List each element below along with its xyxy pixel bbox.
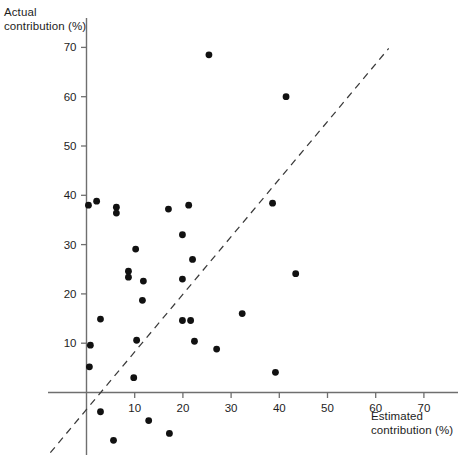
x-tick-label: 10 [128,402,141,414]
data-point [140,278,147,285]
y-tick-label: 10 [64,337,77,349]
x-tick-label: 50 [321,402,334,414]
data-point [97,316,104,323]
y-tick-label: 70 [64,41,77,53]
x-tick-label: 30 [225,402,238,414]
x-tick-label: 60 [369,402,382,414]
x-tick-label: 70 [418,402,431,414]
data-point [272,369,279,376]
data-point [139,297,146,304]
data-point [166,430,173,437]
axes-group [48,18,458,455]
data-point [189,256,196,263]
data-point [125,268,132,275]
data-point [269,200,276,207]
data-points-group [85,51,299,443]
data-point [187,317,194,324]
data-point [125,274,132,281]
y-tick-label: 50 [64,140,77,152]
data-point [130,374,137,381]
data-point [87,342,94,349]
plot-canvas: 10203040506070 10203040506070 [0,0,458,455]
data-point [179,317,186,324]
data-point [206,51,213,58]
y-tick-label: 30 [64,239,77,251]
data-point [145,417,152,424]
data-point [191,338,198,345]
y-ticks-group: 10203040506070 [64,41,87,349]
x-tick-label: 20 [177,402,190,414]
y-tick-label: 60 [64,91,77,103]
data-point [185,202,192,209]
data-point [110,437,117,444]
data-point [179,231,186,238]
data-point [132,246,139,253]
data-point [292,270,299,277]
data-point [86,363,93,370]
data-point [113,210,120,217]
data-point [165,206,172,213]
data-point [113,204,120,211]
x-ticks-group: 10203040506070 [128,393,430,414]
y-tick-label: 40 [64,189,77,201]
data-point [283,93,290,100]
scatter-plot-figure: Actual contribution (%) Estimated contri… [0,0,458,455]
data-point [93,198,100,205]
data-point [85,202,92,209]
data-point [133,337,140,344]
data-point [179,276,186,283]
data-point [239,310,246,317]
y-tick-label: 20 [64,288,77,300]
data-point [97,408,104,415]
x-tick-label: 40 [273,402,286,414]
data-point [213,346,220,353]
